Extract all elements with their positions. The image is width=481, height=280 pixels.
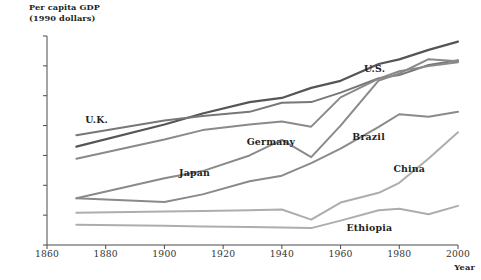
series-label-germany: Germany xyxy=(247,136,296,147)
series-label-brazil: Brazil xyxy=(352,131,385,142)
x-axis-tick-label: 1900 xyxy=(152,248,176,259)
series-label-uk: U.K. xyxy=(85,114,108,125)
chart-container: Per capita GDP (1990 dollars) 2505001,00… xyxy=(0,0,481,280)
x-axis-tick-label: 1940 xyxy=(270,248,294,259)
x-axis-tick-label: 2000 xyxy=(446,248,470,259)
x-axis-tick-label: 1920 xyxy=(211,248,235,259)
x-axis-tick-label: 1860 xyxy=(35,248,59,259)
x-axis-tick-label: 1960 xyxy=(328,248,352,259)
x-axis-title: Year xyxy=(454,262,475,272)
series-label-japan: Japan xyxy=(179,167,210,178)
series-line-us xyxy=(76,42,458,147)
series-label-us: U.S. xyxy=(364,63,385,74)
chart-plot-area xyxy=(0,0,481,280)
series-label-ethiopia: Ethiopia xyxy=(346,222,392,233)
x-axis-tick-label: 1880 xyxy=(94,248,118,259)
series-label-china: China xyxy=(393,163,425,174)
x-axis-tick-label: 1980 xyxy=(387,248,411,259)
